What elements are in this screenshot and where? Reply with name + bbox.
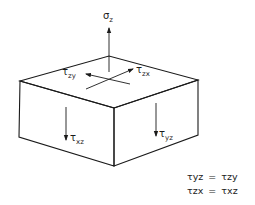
tau-zx-arrow-icon [86,69,133,89]
tau-xz-label: τxz [70,132,84,146]
equation-1: τyz = τzy [187,171,238,182]
equation-2: τzx = τxz [187,185,238,196]
front-left-face [19,81,114,166]
tau-yz-label: τyz [159,128,173,142]
tau-zy-arrow-icon [86,74,130,84]
sigma-z-label: σz [103,10,113,24]
element-box [19,56,198,166]
tau-zy-label: τzy [62,66,76,80]
equations: τyz = τzy τzx = τxz [187,171,238,196]
stress-element-diagram: σz τzy τzx τxz τyz τyz = τzy τzx = τxz [0,0,255,205]
